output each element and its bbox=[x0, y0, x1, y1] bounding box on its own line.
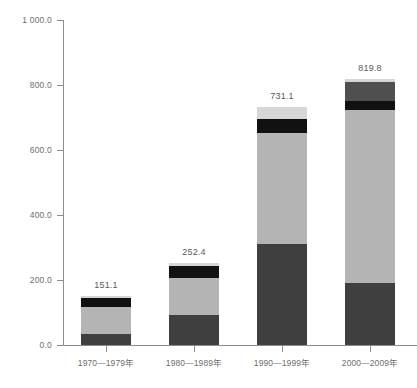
x-axis-tick bbox=[282, 346, 283, 352]
y-axis-tick bbox=[57, 280, 63, 281]
x-axis-tick bbox=[370, 346, 371, 352]
bar-segment-segment-2-middle[interactable] bbox=[169, 278, 219, 315]
bar[interactable] bbox=[345, 0, 395, 345]
bar-total-label: 252.4 bbox=[182, 247, 206, 257]
bar-total-label: 151.1 bbox=[94, 280, 118, 290]
x-axis-tick-label: 1990—1999年 bbox=[254, 356, 310, 368]
y-axis-tick bbox=[57, 215, 63, 216]
y-axis-tick-label: 200.0 bbox=[0, 275, 52, 285]
x-axis-tick-label: 1980—1989年 bbox=[166, 356, 222, 368]
bar-segment-segment-5-top[interactable] bbox=[257, 107, 307, 119]
y-axis-tick bbox=[57, 150, 63, 151]
y-axis-line bbox=[63, 20, 64, 346]
bar[interactable] bbox=[81, 0, 131, 345]
bar-segment-segment-5-top[interactable] bbox=[81, 296, 131, 298]
bar-segment-segment-5-top[interactable] bbox=[345, 79, 395, 82]
y-axis-tick-label: 0.0 bbox=[0, 340, 52, 350]
y-axis-tick-label: 600.0 bbox=[0, 145, 52, 155]
bar-segment-segment-5-top[interactable] bbox=[169, 263, 219, 266]
bar-segment-segment-1-bottom[interactable] bbox=[81, 334, 131, 345]
bar-segment-segment-1-bottom[interactable] bbox=[169, 315, 219, 345]
x-axis-tick-label: 2000—2009年 bbox=[342, 356, 398, 368]
bar-segment-segment-2-middle[interactable] bbox=[345, 110, 395, 283]
bar-segment-segment-3-black[interactable] bbox=[81, 298, 131, 308]
bar[interactable] bbox=[257, 0, 307, 345]
bar-segment-segment-3-black[interactable] bbox=[169, 266, 219, 278]
bar[interactable] bbox=[169, 0, 219, 345]
bar-segment-segment-1-bottom[interactable] bbox=[345, 283, 395, 345]
bar-segment-segment-4-darkgray[interactable] bbox=[345, 82, 395, 101]
y-axis-tick bbox=[57, 85, 63, 86]
bar-segment-segment-2-middle[interactable] bbox=[81, 307, 131, 334]
y-axis-tick-label: 1 000.0 bbox=[0, 15, 52, 25]
bar-total-label: 819.8 bbox=[358, 63, 382, 73]
x-axis-tick bbox=[194, 346, 195, 352]
bar-segment-segment-1-bottom[interactable] bbox=[257, 244, 307, 345]
y-axis-tick-label: 800.0 bbox=[0, 80, 52, 90]
y-axis-tick bbox=[57, 20, 63, 21]
x-axis-tick bbox=[106, 346, 107, 352]
x-axis-tick-label: 1970—1979年 bbox=[78, 356, 134, 368]
y-axis-tick-label: 400.0 bbox=[0, 210, 52, 220]
bar-segment-segment-3-black[interactable] bbox=[345, 101, 395, 110]
bar-total-label: 731.1 bbox=[270, 91, 294, 101]
bar-segment-segment-3-black[interactable] bbox=[257, 119, 307, 133]
bar-segment-segment-2-middle[interactable] bbox=[257, 133, 307, 244]
stacked-bar-chart: 0.0200.0400.0600.0800.01 000.0 1970—1979… bbox=[0, 0, 417, 388]
x-axis-line bbox=[57, 345, 417, 346]
